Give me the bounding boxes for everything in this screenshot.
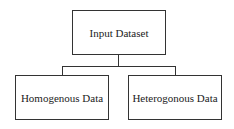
root-node-label: Input Dataset	[90, 27, 149, 39]
child-node-heterogonous-data: Heterogonous Data	[128, 75, 222, 120]
connector-horizontal	[62, 66, 176, 67]
child-node-label: Homogenous Data	[21, 92, 103, 104]
connector-left-vertical	[62, 66, 63, 75]
connector-right-vertical	[175, 66, 176, 75]
connector-root-vertical	[118, 55, 119, 66]
root-node-input-dataset: Input Dataset	[72, 10, 166, 55]
child-node-homogenous-data: Homogenous Data	[15, 75, 109, 120]
child-node-label: Heterogonous Data	[132, 92, 217, 104]
